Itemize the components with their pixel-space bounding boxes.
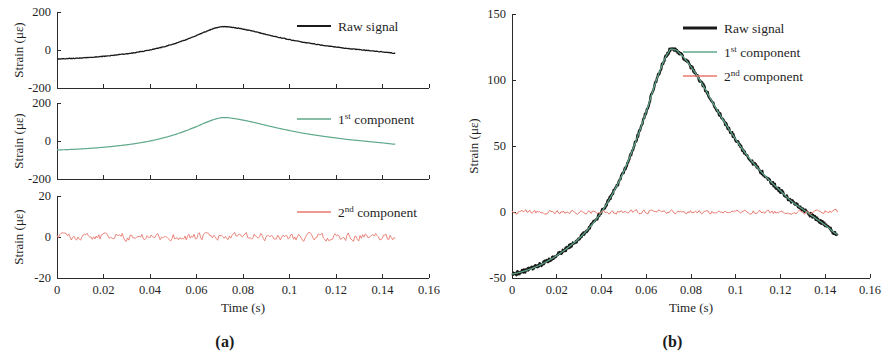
y-tick-label: 0: [500, 205, 506, 219]
y-tick-label: 50: [494, 139, 507, 153]
x-axis-title: Time (s): [669, 300, 713, 315]
x-tick-label: 0.04: [139, 283, 162, 297]
y-tick-label: 100: [487, 73, 506, 87]
x-tick-label: 0: [54, 283, 60, 297]
panel-a-caption: (a): [0, 333, 450, 351]
x-tick-label: 0.08: [680, 283, 702, 297]
legend-first-component-label: 1st component: [338, 111, 414, 127]
legend-raw-signal-label: Raw signal: [724, 21, 785, 36]
x-tick-label: 0.02: [546, 283, 568, 297]
x-tick-label: 0.14: [814, 283, 837, 297]
panel-b: -5005010015000.020.040.060.080.10.120.14…: [450, 0, 895, 353]
legend-second-component-label: 2nd component: [338, 204, 417, 220]
legend-subplot-2: 1st component: [297, 111, 414, 127]
figure-root: -2000200Strain (με)Raw signal-2000200Str…: [0, 0, 895, 353]
x-tick-label: 0: [509, 283, 515, 297]
y-tick-label: -200: [28, 81, 51, 95]
subplot-3: -2002000.020.040.060.080.10.120.140.16St…: [11, 189, 440, 315]
y-tick-label: -200: [28, 172, 51, 186]
series-second-component: [57, 232, 395, 241]
y-axis-title: Strain (με): [11, 209, 26, 264]
x-tick-label: 0.14: [372, 283, 395, 297]
x-tick-label: 0.08: [232, 283, 254, 297]
panel-b-caption: (b): [450, 333, 895, 351]
legend-subplot-1: Raw signal: [297, 19, 399, 34]
x-tick-label: 0.1: [728, 283, 744, 297]
subplot-1: -2000200Strain (με)Raw signal: [11, 5, 429, 95]
x-tick-label: 0.06: [635, 283, 657, 297]
y-axis-title: Strain (με): [11, 113, 26, 168]
x-tick-label: 0.16: [418, 283, 440, 297]
x-tick-label: 0.02: [93, 283, 115, 297]
x-tick-label: 0.16: [859, 283, 881, 297]
y-tick-label: 0: [45, 134, 51, 148]
y-tick-label: 200: [32, 5, 51, 19]
x-axis-title: Time (s): [221, 300, 265, 315]
legend-subplot-3: 2nd component: [297, 204, 417, 220]
panel-a: -2000200Strain (με)Raw signal-2000200Str…: [0, 0, 450, 353]
x-tick-label: 0.1: [282, 283, 298, 297]
y-tick-label: 200: [32, 96, 51, 110]
y-tick-label: -20: [34, 271, 51, 285]
x-tick-label: 0.12: [770, 283, 792, 297]
x-tick-label: 0.04: [591, 283, 614, 297]
y-tick-label: -50: [489, 271, 506, 285]
series-second-component: [512, 209, 838, 214]
y-tick-label: 20: [39, 189, 52, 203]
subplot-2: -2000200Strain (με)1st component: [11, 96, 429, 186]
panel-b-legend: Raw signal1st component2nd component: [683, 21, 803, 84]
x-tick-label: 0.12: [325, 283, 347, 297]
y-tick-label: 0: [45, 43, 51, 57]
x-tick-label: 0.06: [186, 283, 208, 297]
panel-b-plot: -5005010015000.020.040.060.080.10.120.14…: [450, 0, 895, 320]
panel-a-plot: -2000200Strain (με)Raw signal-2000200Str…: [0, 0, 450, 320]
legend-first-component-label: 1st component: [724, 44, 800, 60]
y-tick-label: 150: [487, 7, 506, 21]
panel-b-subplot: -5005010015000.020.040.060.080.10.120.14…: [466, 7, 881, 315]
y-tick-label: 0: [45, 230, 51, 244]
y-axis-title: Strain (με): [11, 22, 26, 77]
legend-second-component-label: 2nd component: [724, 68, 803, 84]
y-axis-title: Strain (με): [466, 118, 481, 173]
legend-raw-signal-label: Raw signal: [338, 19, 399, 34]
